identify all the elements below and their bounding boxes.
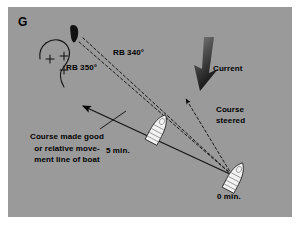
label-relative-bearing-340: RB 340° (113, 48, 144, 57)
label-time-5min: 5 min. (106, 146, 130, 155)
boat-icon-5min (145, 112, 171, 146)
navigation-diagram-figure: G RB 350° RB 340° Current Course steered… (0, 0, 300, 232)
panel-letter: G (18, 15, 27, 29)
shoal-cross-icon (46, 52, 68, 74)
label-time-0min: 0 min. (217, 192, 241, 201)
label-current: Current (213, 64, 243, 73)
label-relative-bearing-350: RB 350° (66, 63, 97, 72)
landmark-buoy-icon (70, 25, 78, 43)
label-course-steered: Course steered (216, 105, 245, 127)
caption-leader-line (100, 111, 126, 129)
diagram-canvas (8, 7, 292, 217)
diagram-panel: G RB 350° RB 340° Current Course steered… (8, 7, 292, 217)
label-course-made-good: Course made good or relative move- ment … (30, 131, 104, 166)
